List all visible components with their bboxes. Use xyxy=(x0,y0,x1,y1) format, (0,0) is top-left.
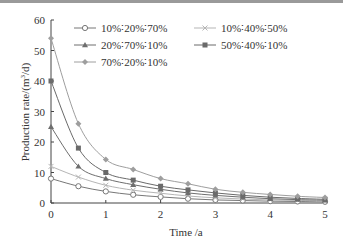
open-circle-marker-icon xyxy=(103,189,108,194)
legend-label: 70%∶20%∶10% xyxy=(101,56,168,68)
legend-label: 10%∶20%∶70% xyxy=(101,22,168,34)
x-tick-label: 0 xyxy=(48,208,54,220)
x-tick-label: 3 xyxy=(213,208,219,220)
legend-item: 50%∶40%∶10% xyxy=(194,39,288,51)
series-lines xyxy=(48,35,328,204)
square-marker-icon xyxy=(186,187,191,192)
square-marker-icon xyxy=(131,178,136,183)
open-circle-marker-icon xyxy=(76,184,81,189)
open-circle-marker-icon xyxy=(131,192,136,197)
x-marker-icon xyxy=(76,175,81,180)
legend-label: 50%∶40%∶10% xyxy=(221,39,288,51)
square-marker-icon xyxy=(49,79,54,84)
legend-item: 20%∶70%∶10% xyxy=(74,39,168,51)
diamond-marker-icon xyxy=(75,121,81,127)
series-70%∶20%∶10% xyxy=(48,35,328,200)
legend-item: 10%∶40%∶50% xyxy=(194,22,288,34)
y-tick-label: 60 xyxy=(34,14,46,26)
legend-item: 70%∶20%∶10% xyxy=(74,56,168,68)
square-marker-icon xyxy=(203,43,208,48)
open-circle-marker-icon xyxy=(48,176,53,181)
x-axis-label: Time /a xyxy=(169,226,203,238)
open-circle-marker-icon xyxy=(185,196,190,201)
square-marker-icon xyxy=(76,146,81,151)
triangle-marker-icon xyxy=(48,124,54,129)
x-tick-label: 1 xyxy=(103,208,109,220)
diamond-marker-icon xyxy=(185,181,191,187)
diamond-marker-icon xyxy=(158,176,164,182)
x-tick-label: 4 xyxy=(267,208,273,220)
open-circle-marker-icon xyxy=(82,25,87,30)
y-tick-label: 40 xyxy=(34,75,46,87)
square-marker-icon xyxy=(103,170,108,175)
production-rate-chart: 0123450102030405060 10%∶20%∶70%10%∶40%∶5… xyxy=(0,0,343,246)
y-tick-label: 20 xyxy=(34,136,46,148)
legend-label: 10%∶40%∶50% xyxy=(221,22,288,34)
y-tick-label: 30 xyxy=(34,106,46,118)
legend-label: 20%∶70%∶10% xyxy=(101,39,168,51)
x-tick-label: 2 xyxy=(158,208,164,220)
y-axis-label: Production rate/(m3/d) xyxy=(19,62,32,161)
diamond-marker-icon xyxy=(130,166,136,172)
legend: 10%∶20%∶70%10%∶40%∶50%20%∶70%∶10%50%∶40%… xyxy=(74,22,288,68)
y-tick-label: 10 xyxy=(34,167,46,179)
x-tick-label: 5 xyxy=(322,208,328,220)
y-tick-label: 50 xyxy=(34,45,46,57)
legend-item: 10%∶20%∶70% xyxy=(74,22,168,34)
diamond-marker-icon xyxy=(82,59,88,65)
square-marker-icon xyxy=(158,184,163,189)
diamond-marker-icon xyxy=(48,35,54,41)
y-tick-label: 0 xyxy=(40,197,46,209)
